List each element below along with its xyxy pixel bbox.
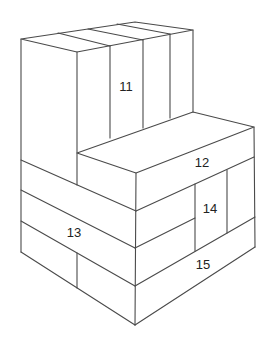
- block-stack-diagram: 11 12 13 14 15: [0, 0, 269, 346]
- label-13: 13: [67, 225, 81, 240]
- left-bottom-edge: [21, 252, 135, 325]
- label-12: 12: [195, 155, 209, 170]
- right-course-1: [135, 218, 195, 248]
- front-corner-edge: [135, 173, 136, 325]
- right-outer-edge: [254, 127, 255, 247]
- top-divider-1: [58, 33, 110, 46]
- label-14: 14: [203, 201, 217, 216]
- step-top-face: [77, 112, 254, 173]
- top-divider-2: [88, 29, 143, 40]
- right-face-group: [135, 170, 255, 325]
- label-15: 15: [196, 257, 210, 272]
- label-11: 11: [119, 79, 133, 94]
- left-face-group: [21, 160, 136, 325]
- tall-block-group: [21, 22, 193, 252]
- tall-top-face: [21, 22, 193, 52]
- step-block-group: [77, 112, 255, 325]
